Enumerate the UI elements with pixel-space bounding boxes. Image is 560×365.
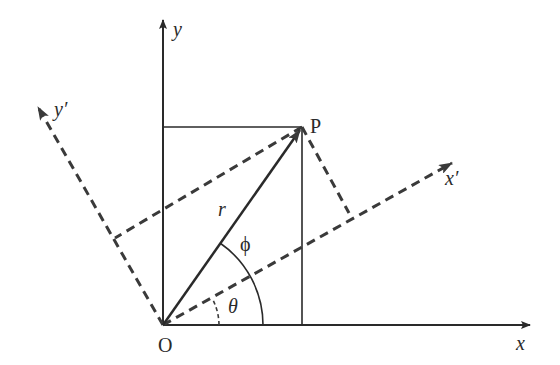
point-p-label: P xyxy=(310,115,321,137)
projection-to-x-prime xyxy=(302,127,349,213)
radius-label: r xyxy=(218,198,226,220)
x-axis-label: x xyxy=(515,332,525,354)
rotation-diagram: O P x y x′ y′ r ϕ θ xyxy=(0,0,560,365)
phi-angle-arc xyxy=(220,243,263,325)
theta-angle-arc xyxy=(213,300,219,325)
projection-to-y-prime xyxy=(115,127,302,238)
phi-label: ϕ xyxy=(240,233,251,256)
x-prime-axis-label: x′ xyxy=(444,167,459,189)
origin-label: O xyxy=(158,334,172,356)
y-prime-axis xyxy=(38,107,163,325)
x-prime-axis xyxy=(163,163,452,325)
y-prime-axis-label: y′ xyxy=(52,98,68,121)
theta-label: θ xyxy=(228,295,238,317)
y-axis-label: y xyxy=(171,18,182,41)
